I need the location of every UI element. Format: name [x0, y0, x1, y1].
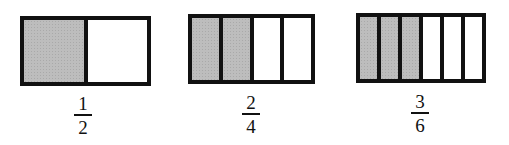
- shaded-part: [192, 18, 219, 80]
- fraction-model-2: [188, 14, 315, 84]
- denominator: 4: [236, 118, 266, 135]
- shaded-part: [360, 17, 377, 79]
- shaded-part: [398, 17, 419, 79]
- unshaded-part: [419, 17, 440, 79]
- fraction-bar: [411, 112, 429, 114]
- unshaded-part: [84, 20, 148, 82]
- unshaded-part: [250, 18, 281, 80]
- numerator: 1: [68, 95, 98, 112]
- unshaded-part: [461, 17, 482, 79]
- fraction-label-2: 2 4: [236, 94, 266, 135]
- denominator: 6: [405, 117, 435, 134]
- fraction-bar: [242, 113, 260, 115]
- shaded-part: [219, 18, 250, 80]
- shaded-part: [377, 17, 398, 79]
- numerator: 2: [236, 94, 266, 111]
- fraction-bar: [74, 114, 92, 116]
- numerator: 3: [405, 93, 435, 110]
- shaded-part: [24, 20, 84, 82]
- fraction-model-1: [20, 16, 151, 86]
- fraction-label-1: 1 2: [68, 95, 98, 136]
- fraction-label-3: 3 6: [405, 93, 435, 134]
- denominator: 2: [68, 119, 98, 136]
- unshaded-part: [280, 18, 311, 80]
- unshaded-part: [440, 17, 461, 79]
- fraction-model-3: [356, 13, 486, 83]
